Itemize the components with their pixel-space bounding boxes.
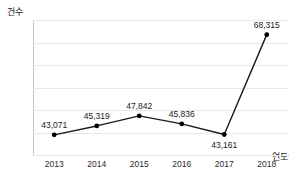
data-point-label: 45,836 xyxy=(169,109,195,119)
x-tick-2013: 2013 xyxy=(45,159,64,169)
y-axis-title: 건수 xyxy=(7,5,23,18)
data-point xyxy=(179,121,184,126)
x-tick-2014: 2014 xyxy=(87,159,106,169)
data-point-label: 43,161 xyxy=(211,140,237,150)
series-line xyxy=(33,20,288,155)
series-markers xyxy=(52,32,269,137)
data-point-label: 43,071 xyxy=(41,120,67,130)
data-point-label: 68,315 xyxy=(254,20,280,30)
line-chart: 건수 연도 43,07145,31947,84245,83643,16168,3… xyxy=(0,0,300,189)
gridline xyxy=(33,155,288,156)
plot-area xyxy=(33,20,288,155)
data-point xyxy=(222,132,227,137)
data-point xyxy=(52,132,57,137)
x-tick-2016: 2016 xyxy=(172,159,191,169)
data-point xyxy=(137,114,142,119)
x-tick-2018: 2018 xyxy=(257,159,276,169)
data-point xyxy=(264,32,269,37)
x-tick-2015: 2015 xyxy=(130,159,149,169)
data-point-label: 47,842 xyxy=(126,101,152,111)
x-tick-2017: 2017 xyxy=(215,159,234,169)
data-point-label: 45,319 xyxy=(84,111,110,121)
data-point xyxy=(94,124,99,129)
